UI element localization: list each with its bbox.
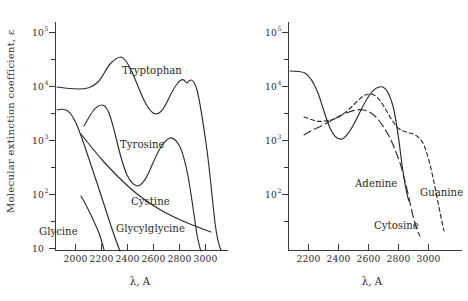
- left-x-ticks: [76, 244, 206, 251]
- right-x-ticks: [309, 244, 429, 251]
- label-glycine: Glycine: [39, 226, 78, 237]
- label-glycylglycine: Glycylglycine: [116, 223, 185, 234]
- left-y-tick-labels: 10 5 10 4 10 3 10 2 10: [32, 25, 49, 254]
- left-ytick-1e2-exp: 2: [45, 187, 49, 194]
- nucleic-bases-panel: 10 5 10 4 10 3 10 2 2200 2400 2600 2800 …: [265, 22, 463, 287]
- right-x-tick-labels: 2200 2400 2600 2800 3000: [296, 253, 440, 264]
- spectra-figure: 10 5 10 4 10 3 10 2 10 2000 2200 2400 26…: [0, 0, 468, 301]
- left-ytick-1e3-exp: 3: [45, 133, 49, 140]
- left-ytick-1e3: 10: [32, 135, 44, 146]
- amino-acids-panel: 10 5 10 4 10 3 10 2 10 2000 2200 2400 26…: [5, 22, 228, 287]
- left-xtick-2200: 2200: [89, 253, 113, 264]
- right-xtick-3000: 3000: [416, 253, 440, 264]
- right-ytick-1e5-exp: 5: [278, 25, 282, 32]
- right-xtick-2200: 2200: [296, 253, 320, 264]
- left-ytick-10: 10: [32, 243, 44, 254]
- right-ytick-1e2: 10: [265, 189, 277, 200]
- left-xtick-2800: 2800: [167, 253, 191, 264]
- curve-tryptophan: [57, 57, 221, 250]
- left-xtick-2600: 2600: [141, 253, 165, 264]
- right-xtick-2600: 2600: [356, 253, 380, 264]
- right-xtick-2400: 2400: [326, 253, 350, 264]
- label-adenine: Adenine: [354, 178, 397, 189]
- right-ytick-1e3: 10: [265, 135, 277, 146]
- right-ytick-1e5: 10: [265, 27, 277, 38]
- right-ytick-1e4: 10: [265, 81, 277, 92]
- left-ytick-1e4: 10: [32, 81, 44, 92]
- left-x-axis-title: λ, A: [130, 276, 151, 287]
- right-ytick-1e3-exp: 3: [278, 133, 282, 140]
- left-ytick-1e4-exp: 4: [45, 79, 49, 86]
- figure-svg: 10 5 10 4 10 3 10 2 10 2000 2200 2400 26…: [0, 0, 468, 301]
- curve-cytosine: [304, 110, 420, 236]
- label-tyrosine: Tyrosine: [120, 139, 165, 150]
- right-ytick-1e4-exp: 4: [278, 79, 282, 86]
- left-xtick-2400: 2400: [115, 253, 139, 264]
- left-y-major-ticks: [49, 33, 56, 249]
- right-x-axis-title: λ, A: [362, 276, 383, 287]
- left-x-tick-labels: 2000 2200 2400 2600 2800 3000: [63, 253, 217, 264]
- left-ytick-1e2: 10: [32, 189, 44, 200]
- right-y-tick-labels: 10 5 10 4 10 3 10 2: [265, 25, 282, 200]
- right-ytick-1e2-exp: 2: [278, 187, 282, 194]
- label-cytosine: Cytosine: [374, 220, 419, 231]
- right-xtick-2800: 2800: [386, 253, 410, 264]
- left-ytick-1e5-exp: 5: [45, 25, 49, 32]
- left-xtick-3000: 3000: [193, 253, 217, 264]
- label-guanine: Guanine: [420, 187, 463, 198]
- curve-glycine: [81, 196, 104, 250]
- left-y-axis-title: Molecular extinction coefficient, ε: [5, 29, 16, 213]
- label-cystine: Cystine: [131, 196, 170, 207]
- left-xtick-2000: 2000: [63, 253, 87, 264]
- label-tryptophan: Tryptophan: [122, 65, 182, 76]
- left-ytick-1e5: 10: [32, 27, 44, 38]
